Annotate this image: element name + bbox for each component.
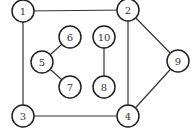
node-label: 2 xyxy=(125,5,131,16)
node-label: 3 xyxy=(20,111,26,122)
node-2: 2 xyxy=(117,0,139,21)
node-9: 9 xyxy=(167,50,189,72)
graph-diagram: 12345678910 xyxy=(0,0,192,134)
node-label: 8 xyxy=(101,82,107,93)
node-label: 10 xyxy=(98,32,111,43)
node-10: 10 xyxy=(93,26,115,48)
edge-1-2 xyxy=(23,10,128,11)
node-1: 1 xyxy=(12,0,34,22)
node-8: 8 xyxy=(93,76,115,98)
node-5: 5 xyxy=(31,51,53,73)
node-label: 9 xyxy=(175,56,181,67)
node-4: 4 xyxy=(117,105,139,127)
node-label: 5 xyxy=(39,57,45,68)
node-label: 1 xyxy=(20,6,26,17)
node-label: 6 xyxy=(67,32,73,43)
nodes: 12345678910 xyxy=(12,0,189,127)
node-label: 7 xyxy=(67,82,73,93)
node-7: 7 xyxy=(59,76,81,98)
node-label: 4 xyxy=(125,111,131,122)
node-3: 3 xyxy=(12,105,34,127)
node-6: 6 xyxy=(59,26,81,48)
